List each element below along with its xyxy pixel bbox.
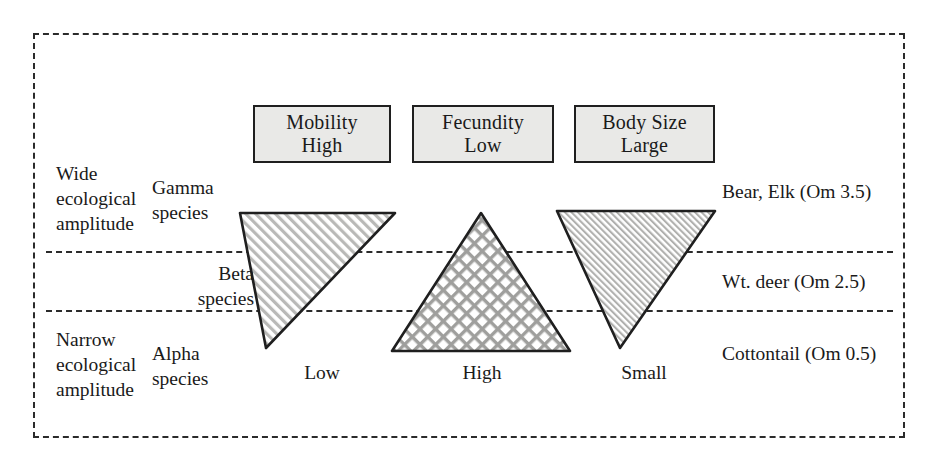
label-gamma-line2: species [152, 201, 214, 226]
attribute-box-bodysize-line2: Large [621, 134, 668, 157]
label-beta-line2: species [138, 287, 254, 312]
attribute-box-bodysize-line1: Body Size [602, 111, 687, 134]
label-narrow-line3: amplitude [56, 378, 136, 403]
label-wide-line2: ecological [56, 187, 136, 212]
label-narrow-line1: Narrow [56, 328, 136, 353]
figure-canvas: Mobility High Fecundity Low Body Size La… [0, 0, 938, 467]
attribute-box-mobility: Mobility High [253, 105, 391, 163]
label-wide-line3: amplitude [56, 212, 136, 237]
label-taxon-gamma: Bear, Elk (Om 3.5) [722, 180, 871, 205]
label-taxon-beta: Wt. deer (Om 2.5) [722, 270, 866, 295]
attribute-box-bodysize: Body Size Large [574, 105, 715, 163]
axis-label-mobility: Low [252, 362, 392, 384]
label-gamma-line1: Gamma [152, 176, 214, 201]
label-alpha-line1: Alpha [152, 342, 208, 367]
axis-label-bodysize: Small [573, 362, 715, 384]
label-beta-line1: Beta [138, 262, 254, 287]
label-alpha-species: Alpha species [152, 342, 208, 392]
attribute-box-mobility-line2: High [302, 134, 343, 157]
attribute-box-fecundity-line2: Low [464, 134, 501, 157]
band-separator-gamma-beta [46, 251, 893, 253]
label-taxon-alpha: Cottontail (Om 0.5) [722, 342, 876, 367]
attribute-box-fecundity: Fecundity Low [412, 105, 554, 163]
label-wide-line1: Wide [56, 162, 136, 187]
label-alpha-line2: species [152, 367, 208, 392]
label-gamma-species: Gamma species [152, 176, 214, 226]
label-wide-ecological-amplitude: Wide ecological amplitude [56, 162, 136, 236]
axis-label-fecundity: High [411, 362, 553, 384]
label-narrow-ecological-amplitude: Narrow ecological amplitude [56, 328, 136, 402]
label-narrow-line2: ecological [56, 353, 136, 378]
label-beta-species: Beta species [138, 262, 254, 312]
attribute-box-mobility-line1: Mobility [286, 111, 358, 134]
attribute-box-fecundity-line1: Fecundity [442, 111, 524, 134]
